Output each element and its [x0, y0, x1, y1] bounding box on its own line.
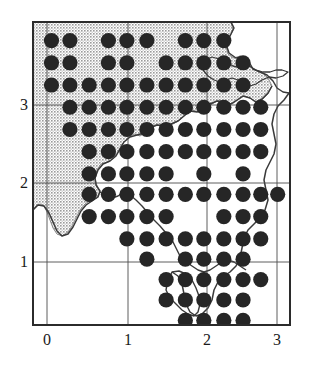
presence-dot [253, 144, 268, 159]
presence-dot [235, 209, 250, 224]
presence-dot [159, 272, 174, 287]
presence-dot [139, 166, 154, 181]
presence-dot [82, 209, 97, 224]
presence-dot [178, 252, 193, 267]
presence-dot [82, 144, 97, 159]
presence-dot [101, 33, 116, 48]
presence-dot [119, 231, 134, 246]
x-tick-label-1: 1 [118, 332, 138, 348]
presence-dot [159, 122, 174, 137]
presence-dot [235, 252, 250, 267]
presence-dot [216, 122, 231, 137]
presence-dot [178, 122, 193, 137]
presence-dot [178, 77, 193, 92]
presence-dot [178, 100, 193, 115]
presence-dot [216, 252, 231, 267]
presence-dot [216, 100, 231, 115]
y-tick-label-2: 2 [12, 175, 28, 191]
presence-dot [196, 33, 211, 48]
presence-dot [196, 144, 211, 159]
presence-dot [119, 55, 134, 70]
x-tick-label-0: 0 [37, 332, 57, 348]
presence-dot [119, 187, 134, 202]
presence-dot [196, 292, 211, 307]
presence-dot [139, 144, 154, 159]
presence-dot [159, 144, 174, 159]
presence-dot [235, 100, 250, 115]
presence-dot [253, 100, 268, 115]
presence-dot [119, 166, 134, 181]
presence-dot [62, 100, 77, 115]
presence-dot [235, 292, 250, 307]
presence-dot [216, 187, 231, 202]
presence-dot [101, 144, 116, 159]
presence-dot [159, 209, 174, 224]
presence-dot [101, 77, 116, 92]
presence-dot [253, 272, 268, 287]
presence-dot [139, 77, 154, 92]
presence-dot [253, 209, 268, 224]
presence-dot [196, 187, 211, 202]
presence-dot [196, 252, 211, 267]
y-tick-label-1: 1 [12, 254, 28, 270]
presence-dot [82, 122, 97, 137]
presence-dot [216, 55, 231, 70]
presence-dot [62, 33, 77, 48]
presence-dot [44, 33, 59, 48]
presence-dot [139, 33, 154, 48]
presence-dot [119, 144, 134, 159]
presence-dot [139, 187, 154, 202]
presence-dot [159, 77, 174, 92]
presence-dot [178, 33, 193, 48]
presence-dot [82, 187, 97, 202]
presence-dot [139, 209, 154, 224]
distribution-map-figure: 0 1 2 3 3 2 1 [0, 0, 313, 380]
x-tick-label-2: 2 [197, 332, 217, 348]
presence-dot [82, 77, 97, 92]
presence-dot [159, 100, 174, 115]
presence-dot [216, 144, 231, 159]
presence-dot [139, 231, 154, 246]
presence-dot [101, 122, 116, 137]
presence-dot [235, 55, 250, 70]
presence-dot [216, 209, 231, 224]
presence-dot [235, 166, 250, 181]
presence-dot [196, 55, 211, 70]
presence-dot [216, 292, 231, 307]
presence-dot [62, 122, 77, 137]
presence-dot [62, 55, 77, 70]
presence-dot [119, 33, 134, 48]
presence-dot [253, 122, 268, 137]
presence-dot [101, 187, 116, 202]
presence-dot [216, 272, 231, 287]
presence-dot [178, 55, 193, 70]
presence-dot [101, 166, 116, 181]
presence-dot [196, 166, 211, 181]
presence-dot [253, 187, 268, 202]
presence-dot [119, 209, 134, 224]
map-canvas [0, 0, 313, 380]
presence-dot [159, 292, 174, 307]
presence-dot [253, 231, 268, 246]
presence-dot [216, 33, 231, 48]
presence-dot [159, 231, 174, 246]
presence-dot [196, 122, 211, 137]
presence-dot [178, 231, 193, 246]
presence-dot [235, 272, 250, 287]
presence-dot [235, 187, 250, 202]
y-tick-label-3: 3 [12, 97, 28, 113]
presence-dot [235, 77, 250, 92]
presence-dot [119, 77, 134, 92]
presence-dot [235, 144, 250, 159]
presence-dot [82, 100, 97, 115]
presence-dot [139, 122, 154, 137]
presence-dot [196, 231, 211, 246]
presence-dot [178, 144, 193, 159]
presence-dot [216, 77, 231, 92]
x-tick-label-3: 3 [267, 332, 287, 348]
presence-dot [82, 166, 97, 181]
presence-dot [178, 292, 193, 307]
presence-dot [270, 187, 285, 202]
presence-dot [44, 55, 59, 70]
presence-dot [44, 77, 59, 92]
